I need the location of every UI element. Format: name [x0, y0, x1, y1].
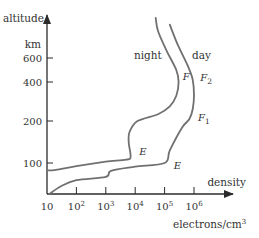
x-axis-title: density — [207, 176, 246, 188]
ionosphere-chart: 100200400600 10102103104105106 EFEF1F2 a… — [0, 0, 259, 238]
series-line-night — [47, 18, 179, 170]
series-label-day: day — [192, 49, 211, 61]
x-tick-label: 105 — [156, 200, 173, 212]
layer-label-day: F1 — [197, 112, 210, 126]
layer-label-night: F — [182, 71, 191, 82]
x-tick-label: 10 — [41, 201, 54, 212]
y-axis-unit: km — [25, 38, 41, 50]
y-tick-label: 600 — [23, 53, 42, 64]
series-line-day — [49, 25, 194, 194]
y-tick-label: 100 — [23, 158, 42, 169]
x-axis-unit: electrons/cm3 — [173, 218, 246, 230]
y-axis-title: altitude — [3, 12, 44, 24]
y-tick-label: 200 — [23, 116, 42, 127]
layer-label-night: E — [138, 146, 147, 157]
y-tick-label: 400 — [23, 77, 42, 88]
x-tick-label: 103 — [97, 200, 114, 212]
layer-label-day: E — [173, 160, 182, 171]
x-tick-label: 104 — [127, 200, 145, 212]
x-tick-label: 102 — [68, 200, 85, 212]
layer-label-day: F2 — [199, 72, 212, 86]
x-tick-label: 106 — [185, 200, 203, 212]
x-axis-unit-text: electrons/cm — [173, 218, 242, 230]
series-label-night: night — [134, 49, 163, 61]
